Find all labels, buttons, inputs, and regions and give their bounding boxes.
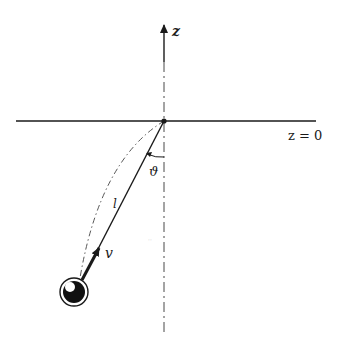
pivot-point [161, 118, 166, 123]
pendulum-bob [60, 278, 88, 306]
length-label: l [113, 197, 117, 211]
angle-label: ϑ [149, 164, 158, 179]
plane-label: z = 0 [288, 128, 322, 143]
z-axis-label: z [171, 23, 181, 39]
velocity-label: v [105, 245, 113, 261]
faint-mark: ·· [148, 236, 152, 243]
pendulum-diagram: z z = 0 ϑ l v ·· [0, 0, 337, 345]
